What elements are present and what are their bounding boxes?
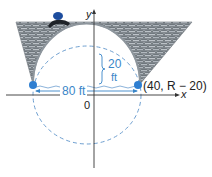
origin-label: 0 (84, 100, 90, 111)
y-axis-label: y (86, 9, 92, 20)
bridge-arch-diagram: y x 0 20 ft 80 ft (40, R − 20) (0, 0, 212, 177)
height-brace (99, 54, 105, 84)
right-endpoint-dot (134, 81, 142, 89)
stone-bridge (16, 22, 192, 84)
left-endpoint-dot (29, 81, 37, 89)
height-value-label: 20 (108, 58, 121, 70)
span-label: 80 ft (60, 85, 87, 97)
height-unit-label: ft (111, 72, 117, 83)
point-label: (40, R − 20) (143, 80, 207, 92)
